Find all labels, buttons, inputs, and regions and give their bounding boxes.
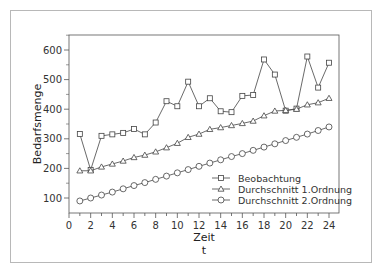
y-axis-title: Bedarfsmenge <box>31 84 44 165</box>
series-1 <box>77 54 331 172</box>
x-axis-title: Zeit <box>193 231 215 244</box>
legend-label: Beobachtung <box>238 173 301 184</box>
legend-label: Durchschnitt 2.Ordnung <box>238 195 352 206</box>
x-tick-label: 20 <box>279 220 292 231</box>
y-tick-label: 300 <box>43 133 62 144</box>
legend-item: Durchschnitt 2.Ordnung <box>212 195 352 206</box>
x-tick-label: 18 <box>258 220 271 231</box>
legend: BeobachtungDurchschnitt 1.OrdnungDurchsc… <box>212 173 352 206</box>
y-tick-label: 400 <box>43 104 62 115</box>
x-tick-label: 22 <box>301 220 314 231</box>
legend-label: Durchschnitt 1.Ordnung <box>238 184 352 195</box>
x-tick-label: 10 <box>171 220 184 231</box>
y-tick-label: 200 <box>43 163 62 174</box>
x-axis-subtitle: t <box>202 244 207 257</box>
x-axis: 024681012141618202224 <box>66 213 336 231</box>
x-tick-label: 16 <box>236 220 249 231</box>
line-chart: 100200300400500600 024681012141618202224… <box>0 0 381 273</box>
x-tick-label: 12 <box>193 220 206 231</box>
x-tick-label: 0 <box>66 220 72 231</box>
y-axis: 100200300400500600 <box>43 35 69 203</box>
x-tick-label: 8 <box>152 220 158 231</box>
y-tick-label: 600 <box>43 45 62 56</box>
x-tick-label: 24 <box>323 220 336 231</box>
x-tick-label: 6 <box>131 220 137 231</box>
x-tick-label: 4 <box>109 220 115 231</box>
legend-item: Beobachtung <box>212 173 301 184</box>
y-tick-label: 500 <box>43 74 62 85</box>
y-tick-label: 100 <box>43 193 62 204</box>
x-tick-label: 14 <box>214 220 227 231</box>
legend-item: Durchschnitt 1.Ordnung <box>212 184 352 195</box>
x-tick-label: 2 <box>87 220 93 231</box>
